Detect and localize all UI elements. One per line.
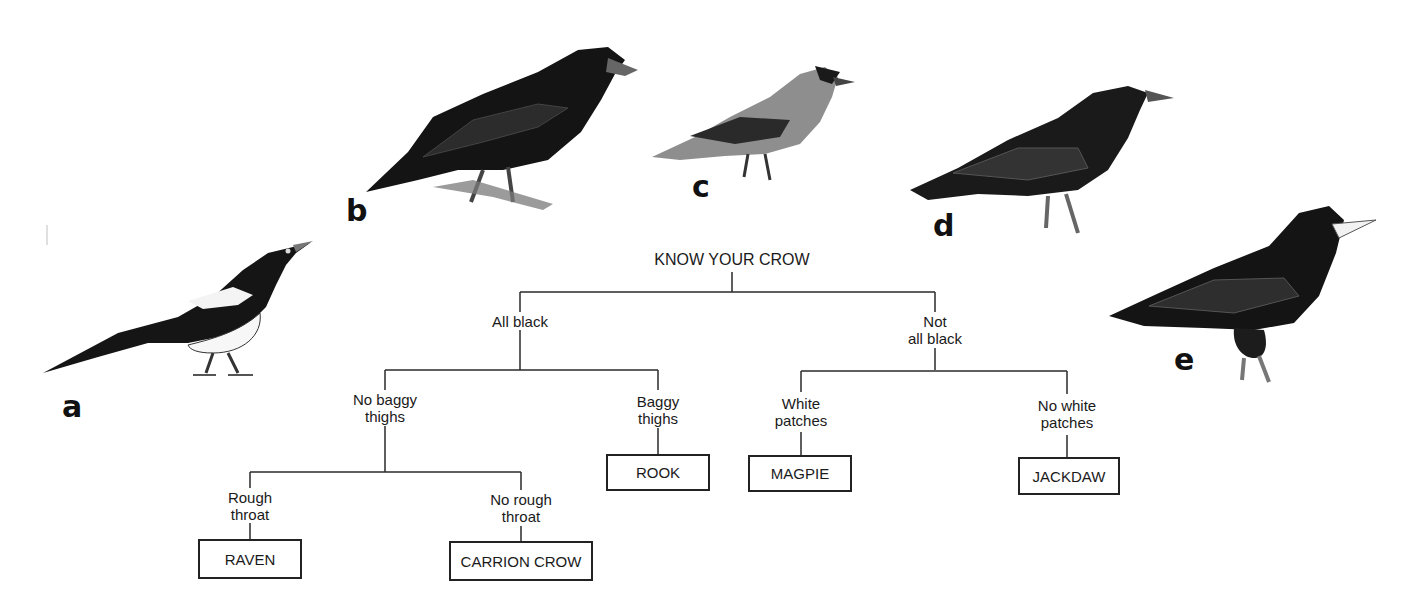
branch-no-rough-throat: No rough throat (488, 491, 554, 525)
branch-white-line1: White (775, 395, 828, 412)
branch-no-white-patches: No white patches (1036, 397, 1098, 431)
branch-no-white-line1: No white (1038, 397, 1096, 414)
key-tree-connectors (0, 0, 1418, 607)
branch-rough-line1: Rough (228, 489, 272, 506)
branch-white-patches: White patches (773, 395, 830, 429)
branch-no-baggy-thighs: No baggy thighs (351, 391, 419, 425)
branch-no-rough-line2: throat (490, 508, 552, 525)
branch-baggy-line1: Baggy (637, 393, 680, 410)
branch-baggy-thighs: Baggy thighs (635, 393, 682, 427)
branch-all-black: All black (490, 313, 550, 330)
branch-no-white-line2: patches (1038, 414, 1096, 431)
branch-no-baggy-line1: No baggy (353, 391, 417, 408)
branch-not-all-black: Not all black (906, 313, 964, 347)
branch-baggy-line2: thighs (637, 410, 680, 427)
branch-rough-throat: Rough throat (226, 489, 274, 523)
branch-not-all-black-line2: all black (908, 330, 962, 347)
branch-not-all-black-line1: Not (908, 313, 962, 330)
leaf-jackdaw: JACKDAW (1018, 457, 1120, 495)
leaf-carrion-crow: CARRION CROW (449, 541, 593, 581)
branch-white-line2: patches (775, 412, 828, 429)
leaf-raven: RAVEN (198, 539, 302, 579)
leaf-magpie: MAGPIE (748, 455, 852, 492)
leaf-rook: ROOK (606, 454, 710, 491)
branch-no-rough-line1: No rough (490, 491, 552, 508)
branch-no-baggy-line2: thighs (353, 408, 417, 425)
branch-rough-line2: throat (228, 506, 272, 523)
key-title: KNOW YOUR CROW (654, 251, 809, 269)
